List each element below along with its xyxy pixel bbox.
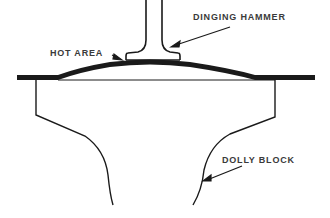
- hammer-handle-left: [126, 0, 146, 60]
- dolly-arrow-head: [203, 175, 211, 181]
- dinging-hammer-label: DINGING HAMMER: [193, 12, 286, 22]
- hot-area-label: HOT AREA: [50, 48, 103, 58]
- hot-area-arrow-head: [113, 54, 122, 60]
- hammer-arrow-head: [171, 41, 180, 47]
- dinging-hammer-diagram: DINGING HAMMER HOT AREA DOLLY BLOCK: [0, 0, 330, 218]
- dolly-right-side: [193, 80, 275, 205]
- diagram-canvas: DINGING HAMMER HOT AREA DOLLY BLOCK: [0, 0, 330, 218]
- hammer-arrow-line: [176, 27, 230, 45]
- dolly-block-label: DOLLY BLOCK: [222, 155, 295, 165]
- metal-sheet: [17, 60, 315, 81]
- hammer-handle-right: [162, 0, 180, 60]
- dolly-left-side: [36, 80, 113, 205]
- dinging-hammer: [126, 0, 180, 60]
- dolly-arrow-line: [207, 166, 242, 180]
- dolly-block: [36, 80, 275, 205]
